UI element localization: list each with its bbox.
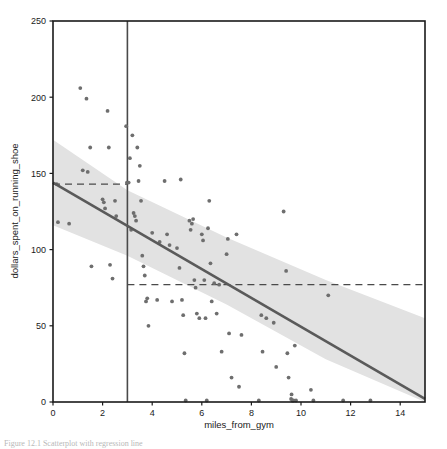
x-tick-label: 0 [50,408,55,418]
figure-root: 02468101214050100150200250 miles_from_gy… [0,0,447,449]
y-axis-title: dollars_spent_on_running_shoe [9,143,20,278]
x-tick-label: 2 [100,408,105,418]
scatter-plot: 02468101214050100150200250 miles_from_gy… [0,0,447,449]
y-tick-label: 200 [31,93,46,103]
x-tick-label: 4 [150,408,155,418]
x-tick-label: 8 [249,408,254,418]
y-tick-label: 100 [31,245,46,255]
x-axis-title: miles_from_gym [204,419,274,430]
y-tick-label: 250 [31,16,46,26]
x-tick-label: 6 [199,408,204,418]
x-tick-label: 12 [346,408,356,418]
y-tick-label: 150 [31,169,46,179]
y-tick-label: 50 [36,321,46,331]
figure-caption: Figure 12.1 Scatterplot with regression … [4,439,143,448]
x-tick-label: 10 [296,408,306,418]
y-tick-label: 0 [41,397,46,407]
x-tick-label: 14 [395,408,405,418]
